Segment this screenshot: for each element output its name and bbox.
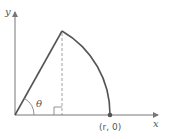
diagram-canvas: θ y x (r, 0)	[0, 0, 169, 139]
right-angle-marker	[54, 107, 62, 115]
arc	[62, 31, 110, 115]
x-axis-label: x	[153, 118, 159, 129]
point-label: (r, 0)	[99, 122, 121, 132]
angle-arc	[25, 99, 35, 116]
theta-label: θ	[36, 98, 42, 109]
point-r0	[108, 113, 113, 118]
sector-diagram: θ y x (r, 0)	[0, 0, 169, 139]
y-axis-label: y	[4, 6, 11, 17]
